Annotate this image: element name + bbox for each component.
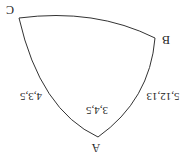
vertex-label-B: B	[162, 33, 170, 47]
edge-BA	[98, 38, 155, 137]
edge-label-AB: 5,12,13	[146, 91, 180, 103]
edge-CB	[19, 16, 155, 39]
vertex-label-A: A	[91, 141, 100, 155]
vertex-label-C: C	[6, 3, 14, 17]
edge-label-AC: 4,3,5	[20, 91, 43, 103]
edge-AC	[19, 18, 98, 137]
spherical-triangle-diagram: C B A 4,3,5 3,4,5 5,12,13	[0, 0, 185, 157]
angle-label-A: 3,4,5	[86, 105, 109, 117]
